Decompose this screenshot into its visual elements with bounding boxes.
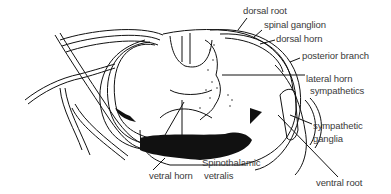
label-spinothalamic: Spinothalamic bbox=[202, 157, 260, 168]
label-lateral-horn-sympathetics: sympathetics bbox=[310, 85, 364, 96]
spinal-cord-diagram: dorsal root spinal ganglion dorsal horn … bbox=[0, 0, 391, 194]
label-ventral-root: ventral root bbox=[316, 177, 362, 188]
label-dorsal-root: dorsal root bbox=[243, 5, 287, 16]
diagram-artwork bbox=[0, 0, 391, 194]
label-posterior-branch: posterior branch bbox=[302, 50, 369, 61]
label-dorsal-horn: dorsal horn bbox=[276, 33, 322, 44]
label-vetralis: vetralis bbox=[204, 170, 233, 181]
label-sympathetic: sympathetic bbox=[313, 120, 363, 131]
label-lateral-horn: lateral horn bbox=[306, 73, 352, 84]
label-vetral-horn: vetral horn bbox=[149, 170, 193, 181]
label-spinal-ganglion: spinal ganglion bbox=[264, 19, 326, 30]
label-ganglia: ganglia bbox=[313, 133, 343, 144]
